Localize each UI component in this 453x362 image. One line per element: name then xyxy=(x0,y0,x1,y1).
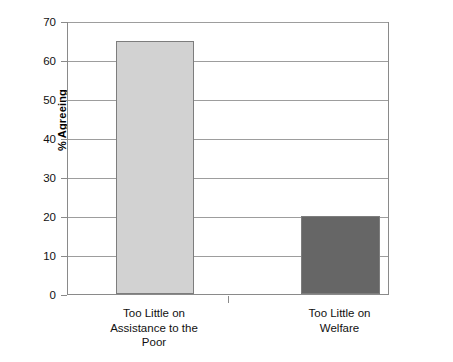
y-tick-label: 0 xyxy=(50,289,56,301)
y-tick-label: 20 xyxy=(43,211,56,223)
plot-area xyxy=(67,22,389,295)
category-label-2: Too Little onWelfare xyxy=(260,306,420,335)
category-label-1: Too Little onAssistance to thePoor xyxy=(74,306,234,350)
y-tick-mark xyxy=(61,295,67,296)
category-label-line: Too Little on xyxy=(260,306,420,321)
y-tick-label: 70 xyxy=(43,16,56,28)
bar-chart: % Agreeing 010203040506070 Too Little on… xyxy=(0,0,453,362)
category-label-line: Too Little on xyxy=(74,306,234,321)
y-tick-label: 50 xyxy=(43,94,56,106)
bar-1 xyxy=(116,41,194,295)
category-label-line: Welfare xyxy=(260,321,420,336)
category-label-line: Assistance to the xyxy=(74,321,234,336)
y-tick-label: 60 xyxy=(43,55,56,67)
category-label-line: Poor xyxy=(74,335,234,350)
category-separator-tick xyxy=(228,296,229,303)
y-tick-label: 40 xyxy=(43,133,56,145)
y-tick-label: 10 xyxy=(43,250,56,262)
gridline-70 xyxy=(68,22,388,23)
bar-2 xyxy=(301,216,380,294)
y-tick-label: 30 xyxy=(43,172,56,184)
